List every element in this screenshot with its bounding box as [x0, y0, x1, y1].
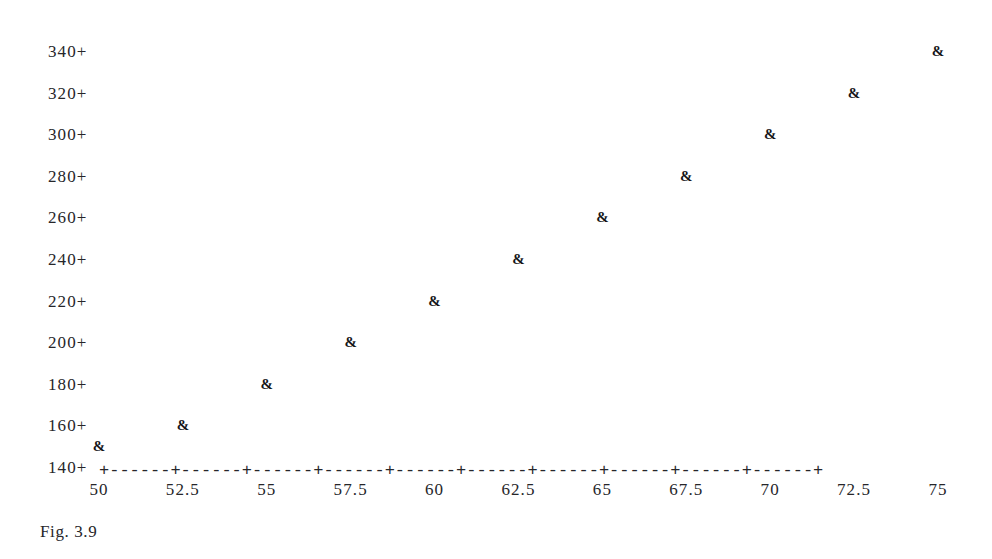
- data-point-marker: &: [177, 418, 190, 433]
- x-tick-label: 55: [257, 481, 276, 498]
- y-tick-label: 260+: [48, 209, 104, 226]
- data-point-marker: &: [848, 85, 861, 100]
- y-tick-label: 220+: [48, 293, 104, 310]
- x-tick-label: 65: [593, 481, 612, 498]
- data-point-marker: &: [344, 335, 357, 350]
- data-point-marker: &: [261, 376, 274, 391]
- y-tick-label: 180+: [48, 376, 104, 393]
- x-tick-label: 50: [89, 481, 108, 498]
- x-tick-label: 52.5: [166, 481, 200, 498]
- x-tick-label: 75: [928, 481, 947, 498]
- data-point-marker: &: [93, 439, 106, 454]
- y-tick-label: 160+: [48, 417, 104, 434]
- data-point-marker: &: [428, 293, 441, 308]
- figure-scatter-plot: 140+160+180+200+220+240+260+280+300+320+…: [0, 0, 992, 559]
- x-axis-rule: +------+------+------+------+------+----…: [99, 462, 823, 479]
- y-tick-label: 240+: [48, 251, 104, 268]
- y-tick-label: 340+: [48, 43, 104, 60]
- y-tick-label: 200+: [48, 334, 104, 351]
- x-tick-label: 62.5: [501, 481, 535, 498]
- data-point-marker: &: [512, 252, 525, 267]
- data-point-marker: &: [680, 168, 693, 183]
- data-point-marker: &: [596, 210, 609, 225]
- y-tick-label: 140+: [48, 459, 104, 476]
- y-tick-label: 300+: [48, 126, 104, 143]
- x-tick-label: 57.5: [334, 481, 368, 498]
- figure-caption: Fig. 3.9: [40, 523, 97, 540]
- x-tick-label: 60: [425, 481, 444, 498]
- data-point-marker: &: [764, 127, 777, 142]
- x-tick-label: 67.5: [669, 481, 703, 498]
- y-tick-label: 280+: [48, 168, 104, 185]
- x-tick-label: 70: [761, 481, 780, 498]
- x-tick-label: 72.5: [837, 481, 871, 498]
- data-point-marker: &: [932, 44, 945, 59]
- y-tick-label: 320+: [48, 85, 104, 102]
